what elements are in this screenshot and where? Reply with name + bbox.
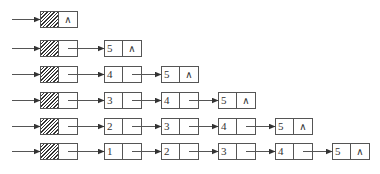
linked-list-diagram: ∧5∧45∧345∧2345∧12345∧ — [0, 0, 380, 174]
arrows-layer — [0, 0, 380, 174]
